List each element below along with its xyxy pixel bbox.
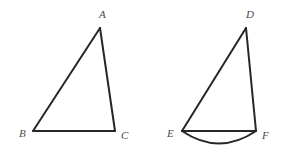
- segment-ab: [33, 28, 100, 131]
- vertex-label-a: A: [99, 9, 106, 20]
- triangle-def-group: [182, 28, 256, 144]
- segment-ca: [100, 28, 115, 131]
- vertex-label-d: D: [246, 9, 254, 20]
- vertex-label-f: F: [262, 130, 269, 141]
- arc-ef-icon: [182, 131, 256, 144]
- triangle-abc-group: [33, 28, 115, 131]
- segment-fd: [246, 28, 256, 131]
- vertex-label-b: B: [19, 128, 26, 139]
- geometry-figure-canvas: A B C D E F: [0, 0, 286, 155]
- vertex-label-c: C: [121, 130, 128, 141]
- segment-de: [182, 28, 246, 131]
- figure-svg: [0, 0, 286, 155]
- vertex-label-e: E: [167, 128, 174, 139]
